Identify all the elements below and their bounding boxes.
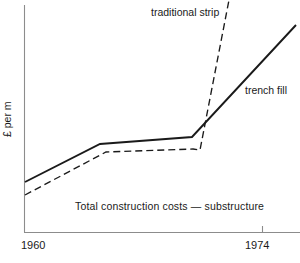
chart-figure: traditional strip trench fill Total cons… (0, 0, 300, 263)
chart-plot-area (0, 0, 300, 263)
y-axis-label: £ per m (2, 101, 13, 137)
series-line-trench-fill (25, 25, 296, 182)
chart-caption: Total construction costs — substructure (75, 201, 264, 212)
annotation-trench-fill: trench fill (245, 85, 287, 96)
annotation-traditional-strip: traditional strip (151, 7, 219, 18)
x-axis-tick-label-start: 1960 (21, 240, 45, 251)
x-axis-tick-label-end: 1974 (245, 240, 269, 251)
